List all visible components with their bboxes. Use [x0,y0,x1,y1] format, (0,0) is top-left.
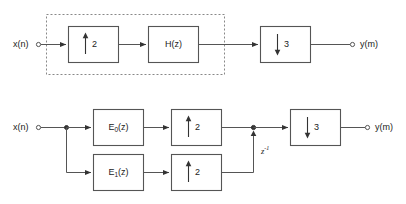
top-filter-block: H(z) [149,27,199,63]
bottom-filter-label-e1: E1(z) [108,167,128,178]
top-output-terminal [350,42,354,46]
bottom-downsampler-factor: 3 [314,122,319,132]
delay-element-label: z-1 [260,145,269,156]
bottom-wire-split-to-e1 [67,128,92,173]
delay-arrowhead [251,131,257,137]
bottom-output-label: y(m) [375,122,393,132]
top-upsampler-factor: 2 [92,39,97,49]
top-downsampler-block: 3 [261,27,311,63]
bottom-upsampler-factor-0: 2 [195,122,200,132]
bottom-upsampler-block-1: 2 [172,155,222,191]
bottom-diagram: x(n) E0(z) E1(z) [13,110,393,191]
top-filter-label: H(z) [165,39,182,49]
bottom-input-label: x(n) [13,122,29,132]
block-diagram-figure: x(n) 2 H(z) [0,0,406,204]
top-diagram: x(n) 2 H(z) [13,15,378,75]
top-downsampler-factor: 3 [284,39,289,49]
top-input-terminal [36,42,40,46]
top-output-label: y(m) [360,39,378,49]
bottom-filter-block-e0: E0(z) [94,110,144,146]
bottom-output-terminal [365,125,369,129]
bottom-input-terminal [36,125,40,129]
bottom-upsampler-block-0: 2 [172,110,222,146]
bottom-filter-label-e0: E0(z) [108,122,128,133]
bottom-filter-block-e1: E1(z) [94,155,144,191]
bottom-downsampler-block: 3 [291,110,341,146]
top-input-label: x(n) [13,39,29,49]
bottom-upsampler-factor-1: 2 [195,167,200,177]
bottom-wire-up1-to-delay [222,136,254,173]
top-upsampler-block: 2 [69,27,119,63]
